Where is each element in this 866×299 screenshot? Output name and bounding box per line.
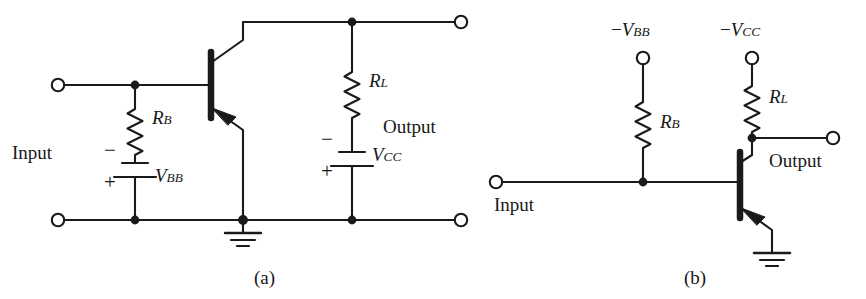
terminal-input-b bbox=[490, 176, 502, 188]
label-supply-vbb-b-subscript: BB bbox=[633, 24, 649, 39]
label-rb-a-symbol: R bbox=[152, 107, 164, 128]
label-rl-a-subscript: L bbox=[381, 75, 388, 90]
label-supply-vcc-b-subscript: CC bbox=[742, 24, 760, 39]
junction-dot-rl-top-a bbox=[348, 18, 357, 27]
battery-vbb-negative-sign-a: − bbox=[104, 140, 116, 161]
label-vbb-a: VBB bbox=[155, 166, 183, 185]
terminal-supply-cc-b bbox=[746, 52, 758, 64]
label-supply-vcc-b-sign: − bbox=[720, 19, 731, 40]
terminal-supply-bb-b bbox=[637, 52, 649, 64]
battery-vcc-negative-sign-a: − bbox=[321, 129, 333, 150]
label-vcc-a-symbol: V bbox=[372, 144, 384, 165]
label-rl-a: RL bbox=[369, 71, 388, 90]
label-output-b: Output bbox=[769, 151, 822, 170]
label-rb-b-subscript: B bbox=[672, 116, 680, 131]
transistor-collector-lead-a bbox=[212, 22, 455, 62]
label-rb-b-symbol: R bbox=[660, 111, 672, 132]
junction-dot-vcc-gnd-a bbox=[348, 216, 357, 225]
schematic-drawing bbox=[0, 0, 866, 299]
label-rl-b: RL bbox=[769, 87, 788, 106]
label-rb-a: RB bbox=[152, 108, 172, 127]
resistor-rb-a bbox=[128, 103, 143, 163]
junction-dot-vbb-gnd-a bbox=[131, 216, 140, 225]
terminal-input-bottom-a bbox=[52, 214, 64, 226]
label-vbb-a-subscript: BB bbox=[167, 170, 183, 185]
label-supply-vcc-b-symbol: V bbox=[731, 19, 743, 40]
figure-canvas: Input Output RB RL VBB − + VCC − + −VBB … bbox=[0, 0, 866, 299]
terminal-output-b bbox=[827, 132, 839, 144]
label-supply-vcc-b: −VCC bbox=[720, 20, 760, 39]
terminal-output-top-a bbox=[455, 16, 467, 28]
terminal-input-top-a bbox=[52, 79, 64, 91]
resistor-rl-b bbox=[745, 80, 760, 138]
label-vbb-a-symbol: V bbox=[155, 165, 167, 186]
label-vcc-a: VCC bbox=[372, 145, 401, 164]
label-vcc-a-subscript: CC bbox=[384, 149, 402, 164]
label-rl-b-symbol: R bbox=[769, 86, 781, 107]
terminal-output-bottom-a bbox=[455, 214, 467, 226]
label-rb-a-subscript: B bbox=[164, 112, 172, 127]
label-rl-b-subscript: L bbox=[781, 91, 788, 106]
label-supply-vbb-b-symbol: V bbox=[622, 19, 634, 40]
caption-b: (b) bbox=[684, 268, 706, 287]
junction-dot-input-node-b bbox=[639, 178, 648, 187]
battery-vbb-positive-sign-a: + bbox=[104, 172, 116, 193]
caption-a: (a) bbox=[254, 268, 275, 287]
label-input-a: Input bbox=[12, 143, 52, 162]
label-rb-b: RB bbox=[660, 112, 680, 131]
label-supply-vbb-b-sign: − bbox=[611, 19, 622, 40]
label-supply-vbb-b: −VBB bbox=[611, 20, 650, 39]
label-input-b: Input bbox=[494, 195, 534, 214]
junction-dot-base-node-a bbox=[131, 81, 140, 90]
battery-vcc-positive-sign-a: + bbox=[321, 161, 333, 182]
label-output-a: Output bbox=[383, 117, 436, 136]
resistor-rb-b bbox=[636, 96, 651, 154]
label-rl-a-symbol: R bbox=[369, 70, 381, 91]
resistor-rl-a bbox=[345, 66, 360, 152]
